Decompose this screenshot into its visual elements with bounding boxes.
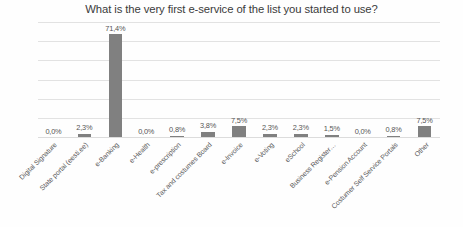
bar-value-label: 2,3% [293,123,309,132]
category-tick: e-Health [131,139,162,225]
category-label: eSchool [283,141,305,163]
bar[interactable] [418,126,432,137]
bar-value-label: 0,0% [355,127,371,136]
bar-value-label: 3,8% [200,121,216,130]
bar[interactable] [387,136,401,137]
bar-value-label: 0,8% [386,125,402,134]
bar[interactable] [201,132,215,137]
bar-slot[interactable]: 7,5% [409,22,440,137]
bar-value-label: 7,5% [231,116,247,125]
category-tick: e-Voting [254,139,285,225]
bar-slot[interactable]: 7,5% [224,22,255,137]
bar-value-label: 0,8% [169,125,185,134]
bar[interactable] [263,134,277,137]
bar[interactable] [78,134,92,137]
bar-slot[interactable]: 0,0% [347,22,378,137]
bar-slot[interactable]: 0,8% [378,22,409,137]
bar-slot[interactable]: 0,0% [131,22,162,137]
category-label: e-Invoice [220,141,244,165]
category-label: Other [412,141,429,158]
bar-value-label: 1,5% [324,124,340,133]
category-tick: e-Banking [100,139,131,225]
bar-slot[interactable]: 2,3% [69,22,100,137]
bar-value-label: 0,0% [138,127,154,136]
bar-slot[interactable]: 0,0% [38,22,69,137]
category-tick: Tax and costumes Board [193,139,224,225]
category-tick: Other [409,139,440,225]
bar-slot[interactable]: 3,8% [193,22,224,137]
category-axis: Digital SignatureState portal (eesti.ee)… [38,139,440,225]
category-label: e-Voting [252,141,275,164]
category-tick: Costumer Self Service Portals [378,139,409,225]
bar-slot[interactable]: 2,3% [285,22,316,137]
bar-series: 0,0%2,3%71,4%0,0%0,8%3,8%7,5%2,3%2,3%1,5… [38,22,440,137]
category-tick: State portal (eesti.ee) [69,139,100,225]
bar-value-label: 2,3% [76,123,92,132]
bar-chart: What is the very first e-service of the … [0,0,463,227]
category-label: e-Health [128,141,151,164]
chart-title: What is the very first e-service of the … [0,3,463,15]
bar-value-label: 7,5% [416,116,432,125]
bar[interactable] [109,34,123,137]
bar-value-label: 71,4% [105,24,125,33]
category-tick: e-Invoice [224,139,255,225]
bar-value-label: 2,3% [262,123,278,132]
bar-slot[interactable]: 71,4% [100,22,131,137]
bar-slot[interactable]: 2,3% [254,22,285,137]
bar[interactable] [325,135,339,137]
bar[interactable] [170,136,184,137]
bar[interactable] [232,126,246,137]
bar-slot[interactable]: 0,8% [162,22,193,137]
axis-baseline [38,137,440,138]
bar[interactable] [294,134,308,137]
bar-value-label: 0,0% [45,127,61,136]
bar-slot[interactable]: 1,5% [316,22,347,137]
